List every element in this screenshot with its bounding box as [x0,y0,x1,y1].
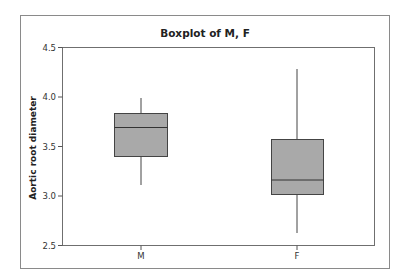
x-axis: M F [137,246,299,262]
x-tick-label: F [295,251,300,261]
y-tick-label: 2.5 [42,241,56,251]
y-tick-label: 3.0 [42,191,56,201]
y-tick-label: 4.5 [42,43,56,53]
boxplot-chart: Boxplot of M, F 4.5 4.0 3.5 3.0 2.5 Aort… [0,0,407,278]
x-tick-label: M [137,251,144,261]
y-axis: 4.5 4.0 3.5 3.0 2.5 [42,43,62,251]
y-tick-label: 3.5 [42,142,56,152]
chart-title: Boxplot of M, F [160,27,250,39]
y-tick-label: 4.0 [42,92,56,102]
plot-area [63,48,375,246]
y-axis-label: Aortic root diameter [28,96,38,200]
